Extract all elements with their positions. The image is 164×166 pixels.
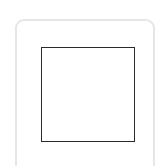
icon-tile xyxy=(0,0,164,166)
square-icon xyxy=(41,47,135,142)
